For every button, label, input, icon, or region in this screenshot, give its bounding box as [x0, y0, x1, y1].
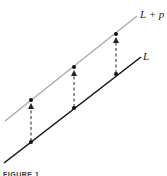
figure-caption: FIGURE 1 [3, 171, 39, 176]
label-translated-line: L + p [140, 8, 164, 20]
line-l [4, 57, 141, 163]
label-line: L [143, 50, 149, 62]
translated-line [5, 16, 137, 121]
translation-diagram [0, 0, 167, 176]
